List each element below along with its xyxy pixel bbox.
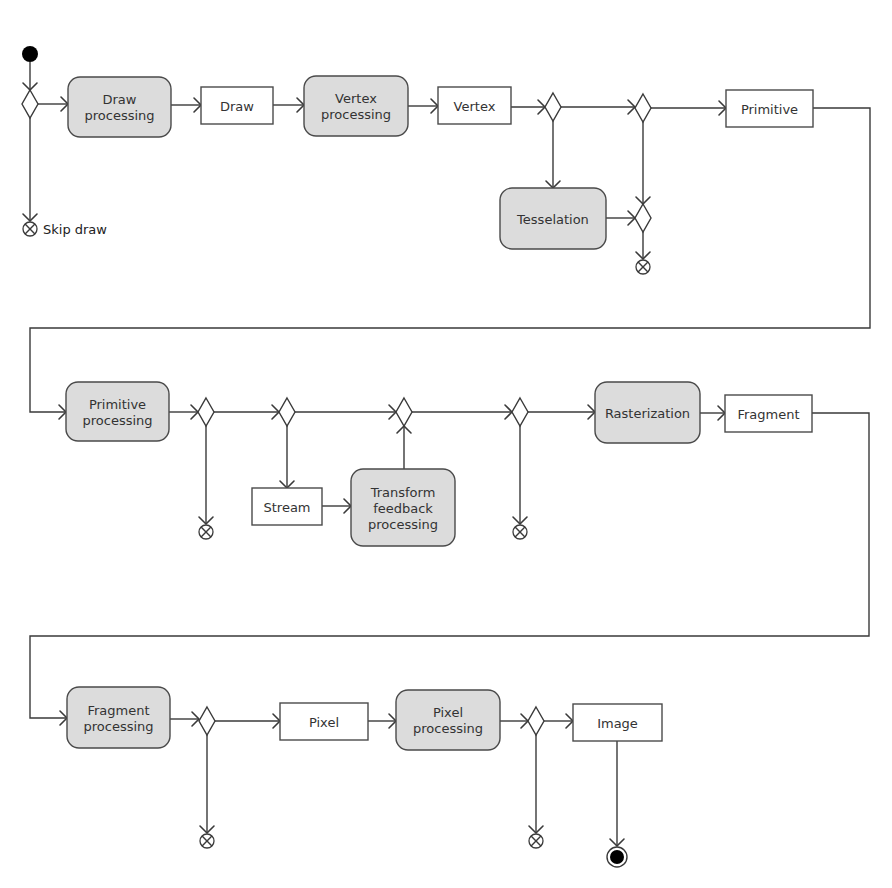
object-draw: Draw <box>201 87 273 124</box>
node-label: processing <box>83 719 153 734</box>
decision-diamond-icon <box>635 94 651 122</box>
flow-edge <box>368 714 396 728</box>
node-label: processing <box>368 517 438 532</box>
flow-final-ff-prim <box>199 525 213 539</box>
flow-edge <box>700 406 725 420</box>
object-label: Image <box>597 716 638 731</box>
flow-edge <box>23 118 37 221</box>
node-label: Rasterization <box>605 406 690 421</box>
decision-diamond-icon <box>512 398 528 426</box>
final-node-inner <box>610 850 624 864</box>
flow-edge <box>295 405 396 419</box>
flow-edge <box>215 714 280 728</box>
flow-final-label: Skip draw <box>43 222 107 237</box>
flow-edge <box>30 413 869 725</box>
activity-fragment-processing: Fragmentprocessing <box>67 687 170 748</box>
node-label: Vertex <box>335 91 377 106</box>
node-label: Transform <box>370 485 436 500</box>
object-label: Primitive <box>741 102 798 117</box>
flow-final-ff-after-tess <box>636 260 650 274</box>
flow-edge <box>529 735 543 833</box>
flow-edge <box>171 98 201 112</box>
decision-diamond-icon <box>635 204 651 232</box>
node-label: Fragment <box>87 703 149 718</box>
node-label: processing <box>84 108 154 123</box>
flow-edge <box>322 499 351 513</box>
flow-edge <box>546 121 560 188</box>
decision-diamond-icon <box>279 398 295 426</box>
node-label: processing <box>413 721 483 736</box>
flow-edge <box>636 232 650 259</box>
flow-edge <box>199 426 213 524</box>
activity-vertex-processing: Vertexprocessing <box>304 76 408 136</box>
flow-final-ff-raster <box>513 525 527 539</box>
node-label: processing <box>82 413 152 428</box>
flow-edge <box>280 426 294 488</box>
flow-edge <box>23 62 37 90</box>
flow-edge <box>513 426 527 524</box>
flow-edge <box>397 426 411 469</box>
node-label: processing <box>321 107 391 122</box>
decision-diamond-icon <box>545 93 561 121</box>
flow-edge <box>170 712 199 726</box>
flow-edge <box>38 97 68 111</box>
node-label: Draw <box>103 92 137 107</box>
activity-tesselation: Tesselation <box>500 188 606 249</box>
flow-edge <box>273 98 304 112</box>
decision-diamond-icon <box>22 90 38 118</box>
flow-final-ff-pixel <box>529 834 543 848</box>
flow-final-ff-skip-draw: Skip draw <box>23 222 107 237</box>
object-label: Vertex <box>454 99 496 114</box>
decision-diamond-icon <box>396 398 412 426</box>
flow-edge <box>500 714 528 728</box>
node-label: Pixel <box>433 705 463 720</box>
flow-edge <box>169 405 198 419</box>
decision-diamond-icon <box>528 707 544 735</box>
activity-primitive-processing: Primitiveprocessing <box>66 382 169 441</box>
flow-edge <box>561 100 635 114</box>
object-fragment: Fragment <box>725 395 812 432</box>
node-label: Tesselation <box>516 212 589 227</box>
initial-node-icon <box>22 46 38 62</box>
object-label: Fragment <box>737 407 799 422</box>
flow-edge <box>610 741 624 846</box>
object-label: Draw <box>220 99 254 114</box>
flow-edge <box>636 122 650 204</box>
pipeline-diagram: DrawprocessingVertexprocessingTesselatio… <box>0 0 892 888</box>
node-label: feedback <box>373 501 433 516</box>
activity-pixel-processing: Pixelprocessing <box>396 690 500 750</box>
flow-edge <box>200 735 214 833</box>
flow-edge <box>606 211 635 225</box>
object-image: Image <box>573 704 662 741</box>
activities-layer: DrawprocessingVertexprocessingTesselatio… <box>66 76 700 750</box>
flow-edge <box>214 405 279 419</box>
flow-edge <box>30 108 870 419</box>
flow-edge <box>528 405 595 419</box>
flow-edge <box>651 101 726 115</box>
activity-draw-processing: Drawprocessing <box>68 77 171 137</box>
flow-edge <box>412 405 512 419</box>
activity-transform-feedback-processing: Transformfeedbackprocessing <box>351 469 455 546</box>
object-pixel: Pixel <box>280 703 368 740</box>
object-label: Stream <box>263 500 310 515</box>
flow-edge <box>511 100 545 114</box>
flow-edge <box>408 99 438 113</box>
decision-diamond-icon <box>198 398 214 426</box>
flow-final-ff-frag <box>200 834 214 848</box>
node-label: Primitive <box>89 397 146 412</box>
flow-finals-layer: Skip draw <box>23 222 650 848</box>
object-label: Pixel <box>309 715 339 730</box>
object-vertex: Vertex <box>438 87 511 124</box>
activity-rasterization: Rasterization <box>595 382 700 443</box>
object-primitive: Primitive <box>726 90 813 127</box>
decision-diamond-icon <box>199 707 215 735</box>
object-stream: Stream <box>252 488 322 525</box>
flow-edge <box>544 714 573 728</box>
